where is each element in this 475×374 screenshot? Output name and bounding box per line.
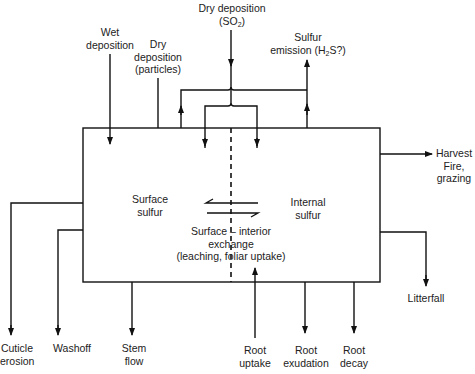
stem-flow-label: Stem flow <box>114 342 154 367</box>
sulfur-emission-label: Sulfur emission (H2S?) <box>268 31 348 56</box>
internal-sulfur-label: Internal sulfur <box>278 196 338 221</box>
root-exudation-label: Root exudation <box>278 344 334 369</box>
exchange-left-arrow <box>206 199 258 203</box>
exchange-right-arrow <box>207 213 258 217</box>
root-decay-label: Root decay <box>334 344 374 369</box>
cuticle-erosion-label: Cuticle erosion <box>0 342 34 367</box>
emission-bracket <box>181 87 307 128</box>
exchange-label: Surface – interior exchange (leaching, f… <box>166 225 296 263</box>
dry-so2-label: Dry deposition (SO2) <box>190 2 274 27</box>
washoff-label: Washoff <box>48 342 96 355</box>
dry-particle-deposition-label: Dry deposition (particles) <box>128 38 188 76</box>
litterfall-label: Litterfall <box>396 292 456 305</box>
litterfall-line <box>380 232 426 282</box>
washoff-line <box>58 230 83 330</box>
surface-sulfur-label: Surface sulfur <box>120 193 180 218</box>
cuticle-erosion-line <box>11 203 83 330</box>
harvest-label: Harvest Fire, grazing <box>432 147 475 185</box>
root-uptake-label: Root uptake <box>232 344 278 369</box>
sulfur-cycle-diagram <box>0 0 475 374</box>
